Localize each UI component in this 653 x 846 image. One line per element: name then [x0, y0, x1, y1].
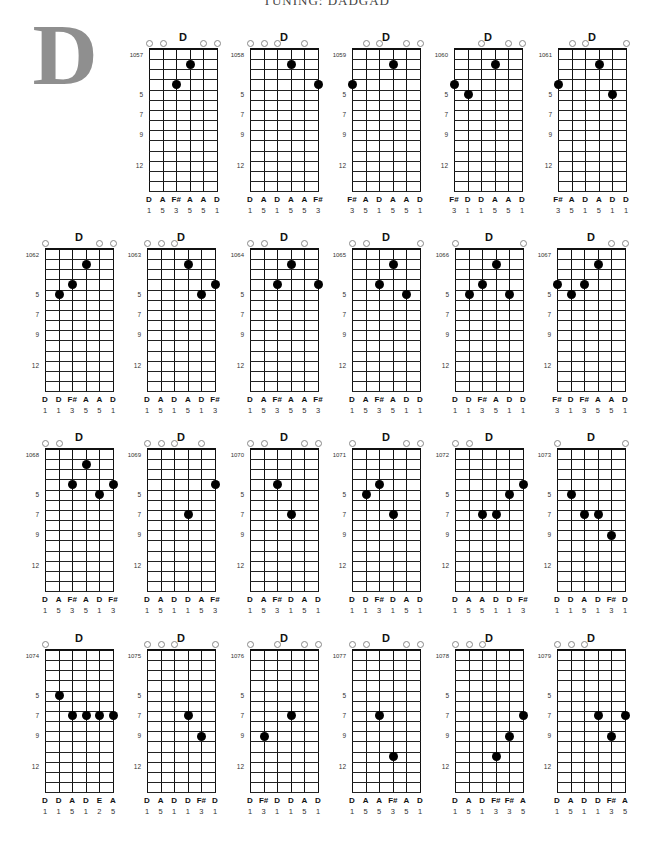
fret-line	[250, 540, 319, 541]
nut	[352, 448, 421, 450]
fret-line	[557, 571, 626, 572]
open-string-icon	[622, 440, 629, 447]
note-label: D	[372, 195, 386, 204]
note-label: D	[448, 595, 462, 604]
note-label: D	[243, 796, 257, 805]
open-string-icon	[261, 440, 268, 447]
interval-label: 5	[475, 606, 489, 615]
interval-label: 3	[550, 406, 564, 415]
fret-marker-12: 12	[25, 763, 39, 770]
open-string-icon	[505, 40, 512, 47]
fret-line	[147, 660, 216, 661]
interval-label: 1	[140, 606, 154, 615]
fret-line	[250, 59, 319, 60]
note-label: F#	[475, 395, 489, 404]
interval-label: 5	[52, 606, 66, 615]
finger-dot-icon	[287, 260, 296, 269]
finger-dot-icon	[197, 732, 206, 741]
finger-dot-icon	[197, 290, 206, 299]
fret-line	[557, 500, 626, 501]
interval-label: 1	[167, 807, 181, 816]
finger-dot-icon	[505, 732, 514, 741]
fret-line	[558, 90, 627, 91]
open-string-icon	[274, 40, 281, 47]
fret-line	[455, 340, 524, 341]
finger-dot-icon	[273, 480, 282, 489]
fret-marker-5: 5	[332, 692, 346, 699]
fret-marker-12: 12	[129, 162, 143, 169]
fret-line	[455, 772, 524, 773]
fret-line	[352, 711, 421, 712]
fret-line	[45, 752, 114, 753]
open-string-icon	[554, 641, 561, 648]
open-string-icon	[144, 440, 151, 447]
fret-line	[45, 782, 114, 783]
fret-line	[147, 792, 216, 793]
note-label: F#	[577, 395, 591, 404]
note-label: F#	[372, 395, 386, 404]
fret-marker-12: 12	[537, 562, 551, 569]
fret-marker-7: 7	[332, 311, 346, 318]
fret-line	[250, 100, 319, 101]
fret-line	[454, 130, 523, 131]
fret-line	[352, 171, 421, 172]
finger-dot-icon	[273, 280, 282, 289]
interval-label: 5	[386, 206, 400, 215]
interval-label: 3	[311, 206, 325, 215]
fret-line	[250, 110, 319, 111]
fret-line	[250, 691, 319, 692]
fret-line	[557, 540, 626, 541]
open-string-icon	[261, 240, 268, 247]
fret-line	[45, 530, 114, 531]
fret-marker-5: 5	[435, 291, 449, 298]
interval-label: 5	[154, 807, 168, 816]
interval-label: 5	[154, 406, 168, 415]
note-label: D	[167, 395, 181, 404]
nut	[250, 48, 319, 50]
fret-line	[147, 391, 216, 392]
interval-label: 5	[618, 807, 632, 816]
fret-line	[45, 792, 114, 793]
fret-marker-9: 9	[129, 131, 143, 138]
open-string-icon	[171, 240, 178, 247]
fret-marker-5: 5	[537, 692, 551, 699]
nut	[250, 248, 319, 250]
fret-marker-9: 9	[434, 131, 448, 138]
note-label: F#	[208, 595, 222, 604]
chart-number: 1069	[117, 452, 141, 458]
fret-line	[454, 100, 523, 101]
fret-line	[454, 151, 523, 152]
fret-line	[147, 711, 216, 712]
open-string-icon	[247, 40, 254, 47]
finger-dot-icon	[287, 510, 296, 519]
finger-dot-icon	[492, 510, 501, 519]
interval-label: 1	[591, 807, 605, 816]
fret-line	[147, 510, 216, 511]
fret-line	[147, 741, 216, 742]
fret-line	[455, 561, 524, 562]
fret-line	[250, 510, 319, 511]
note-label: A	[79, 395, 93, 404]
finger-dot-icon	[287, 60, 296, 69]
fret-line	[45, 361, 114, 362]
note-label: D	[345, 796, 359, 805]
note-label: D	[564, 395, 578, 404]
fret-line	[557, 361, 626, 362]
note-label: D	[142, 195, 156, 204]
note-label: D	[550, 595, 564, 604]
fret-line	[557, 660, 626, 661]
fret-line	[250, 731, 319, 732]
note-label: D	[474, 195, 488, 204]
finger-dot-icon	[68, 480, 77, 489]
fret-line	[557, 300, 626, 301]
open-string-icon	[42, 440, 49, 447]
note-label: A	[154, 796, 168, 805]
note-label: A	[79, 595, 93, 604]
fret-line	[250, 79, 319, 80]
chart-number: 1067	[527, 252, 551, 258]
fret-line	[352, 181, 421, 182]
note-label: D	[345, 395, 359, 404]
finger-dot-icon	[505, 290, 514, 299]
fret-line	[557, 259, 626, 260]
note-label: D	[448, 796, 462, 805]
